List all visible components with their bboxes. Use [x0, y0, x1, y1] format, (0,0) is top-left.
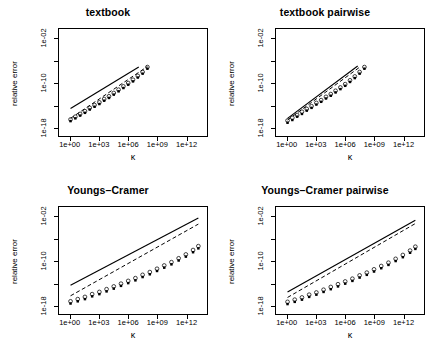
data-point-filled — [351, 280, 353, 282]
y-axis-tick-label: 1e-02 — [256, 29, 265, 48]
data-point-filled — [330, 288, 332, 290]
x-axis-label: κ — [58, 152, 208, 162]
plot-svg — [59, 207, 207, 314]
x-axis-tick-label: 1e+00 — [59, 318, 80, 327]
data-point-filled — [286, 122, 288, 124]
x-axis-tick-label: 1e+00 — [276, 318, 297, 327]
y-axis-tick-label: 1e-18 — [39, 118, 48, 137]
data-point-filled — [310, 107, 312, 109]
y-axis-minor-tick — [271, 284, 275, 285]
data-point-filled — [308, 296, 310, 298]
data-point-filled — [79, 114, 81, 116]
y-axis-tick-label: 1e-10 — [256, 251, 265, 270]
data-point-filled — [74, 117, 76, 119]
y-axis-tick-label: 1e-02 — [256, 207, 265, 226]
data-point-filled — [315, 293, 317, 295]
y-axis-tick — [54, 306, 58, 307]
data-point-filled — [192, 251, 194, 253]
data-point-filled — [322, 291, 324, 293]
panel-title: textbook pairwise — [217, 6, 433, 18]
plot-area — [58, 206, 208, 315]
data-point-filled — [373, 270, 375, 272]
panel-title: Youngs–Cramer pairwise — [217, 184, 433, 196]
data-point-filled — [156, 270, 158, 272]
series-circle-open — [69, 244, 201, 303]
data-point-filled — [120, 285, 122, 287]
data-point-filled — [286, 303, 288, 305]
data-point-filled — [402, 256, 404, 258]
y-axis-minor-tick — [54, 106, 58, 107]
data-point-filled — [89, 108, 91, 110]
data-point-filled — [337, 285, 339, 287]
data-point-filled — [127, 282, 129, 284]
x-axis-tick-label: 1e+12 — [176, 140, 197, 149]
y-axis-tick — [271, 128, 275, 129]
reference-line-solid — [71, 218, 199, 285]
panel-textbook-pairwise: textbook pairwise relative error κ 1e+00… — [217, 0, 433, 178]
y-axis-tick — [271, 306, 275, 307]
y-axis-tick — [271, 83, 275, 84]
data-point-filled — [344, 282, 346, 284]
data-point-filled — [409, 252, 411, 254]
y-axis-minor-tick — [54, 61, 58, 62]
x-axis-tick-label: 1e+03 — [305, 140, 326, 149]
y-axis-tick — [54, 83, 58, 84]
figure-canvas: textbook relative error κ 1e+001e+031e+0… — [0, 0, 433, 357]
x-axis-tick-label: 1e+09 — [364, 318, 385, 327]
data-point-filled — [132, 80, 134, 82]
panel-youngs-cramer: Youngs–Cramer relative error κ 1e+001e+0… — [0, 178, 216, 356]
data-point-filled — [197, 247, 199, 249]
data-point-filled — [387, 264, 389, 266]
data-point-filled — [84, 112, 86, 114]
data-point-filled — [344, 85, 346, 87]
data-point-filled — [134, 279, 136, 281]
x-axis-tick-label: 1e+12 — [393, 318, 414, 327]
y-axis-label: relative error — [227, 239, 236, 284]
data-point-filled — [93, 106, 95, 108]
series-circle-open — [286, 245, 418, 304]
data-point-filled — [296, 115, 298, 117]
data-point-filled — [149, 273, 151, 275]
y-axis-label: relative error — [227, 61, 236, 106]
y-axis-tick — [54, 216, 58, 217]
x-axis-tick-label: 1e+12 — [393, 140, 414, 149]
data-point-filled — [127, 83, 129, 85]
data-point-filled — [146, 67, 148, 69]
x-axis-tick-label: 1e+03 — [88, 140, 109, 149]
x-axis-label: κ — [275, 152, 425, 162]
reference-line-dashed — [71, 67, 148, 119]
data-point-filled — [301, 298, 303, 300]
data-point-filled — [358, 72, 360, 74]
data-point-filled — [315, 103, 317, 105]
data-point-filled — [339, 88, 341, 90]
data-point-filled — [103, 99, 105, 101]
data-point-filled — [98, 293, 100, 295]
x-axis-tick-label: 1e+09 — [147, 318, 168, 327]
plot-svg — [276, 29, 424, 136]
y-axis-minor-tick — [54, 284, 58, 285]
y-axis-tick-label: 1e-10 — [256, 73, 265, 92]
y-axis-tick-label: 1e-10 — [39, 73, 48, 92]
data-point-filled — [98, 103, 100, 105]
plot-svg — [59, 29, 207, 136]
y-axis-tick — [271, 261, 275, 262]
y-axis-minor-tick — [271, 61, 275, 62]
panel-title: Youngs–Cramer — [0, 184, 216, 196]
data-point-filled — [105, 290, 107, 292]
x-axis-tick-label: 1e+09 — [147, 140, 168, 149]
data-point-filled — [414, 248, 416, 250]
plot-area — [275, 28, 425, 137]
y-axis-tick — [54, 38, 58, 39]
y-axis-tick-label: 1e-18 — [39, 296, 48, 315]
x-axis-label: κ — [275, 330, 425, 340]
x-axis-tick-label: 1e+12 — [176, 318, 197, 327]
y-axis-tick-label: 1e-18 — [256, 296, 265, 315]
x-axis-tick-label: 1e+06 — [118, 140, 139, 149]
data-point-filled — [113, 93, 115, 95]
data-point-filled — [366, 274, 368, 276]
series-point-filled — [69, 67, 148, 122]
y-axis-tick-label: 1e-10 — [39, 251, 48, 270]
panel-textbook: textbook relative error κ 1e+001e+031e+0… — [0, 0, 216, 178]
y-axis-tick-label: 1e-18 — [256, 118, 265, 137]
y-axis-tick — [271, 38, 275, 39]
